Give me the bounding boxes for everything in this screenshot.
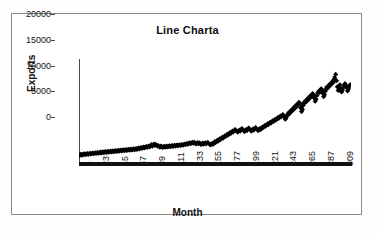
y-axis-tick-labels: 20000150001000050000 — [5, 14, 51, 117]
plot-area — [79, 59, 351, 162]
y-axis-tick — [51, 14, 55, 15]
x-axis-title: Month — [12, 207, 363, 218]
y-axis-tick-label: 20000 — [26, 9, 51, 19]
y-axis-tick — [51, 66, 55, 67]
x-axis-tick-label: 89 — [157, 156, 167, 166]
x-axis-tick-label: 111 — [176, 152, 186, 166]
x-axis-tick-label: 199 — [251, 151, 261, 166]
y-axis-tick — [51, 40, 55, 41]
x-axis-tick-label: 67 — [138, 156, 148, 166]
x-axis-tick-label: 1 — [82, 161, 92, 166]
data-series-markers — [79, 59, 351, 162]
y-axis-tick-label: 5000 — [31, 86, 51, 96]
y-axis-tick — [51, 91, 55, 92]
x-axis-tick-label: 243 — [288, 151, 298, 166]
chart-screenshot: Line Charta Exports 20000150001000050000… — [0, 0, 377, 234]
scatter-marker-path — [79, 72, 351, 158]
x-axis-tick-label: 23 — [101, 156, 111, 166]
x-axis-tick-label: 287 — [326, 151, 336, 166]
y-axis-tick-label: 15000 — [26, 35, 51, 45]
x-axis-tick-label: 177 — [232, 151, 242, 166]
x-axis-tick-label: 265 — [307, 151, 317, 166]
y-axis-tick-label: 10000 — [26, 61, 51, 71]
y-axis-tick — [51, 117, 55, 118]
x-axis-tick-labels: 123456789111133155177199221243265287309 — [79, 166, 352, 206]
chart-title: Line Charta — [12, 24, 363, 36]
x-axis-tick-label: 309 — [345, 151, 355, 166]
x-axis-tick-label: 45 — [120, 156, 130, 166]
x-axis-tick-label: 221 — [270, 151, 280, 166]
x-axis-tick-label: 155 — [213, 151, 223, 166]
x-axis-tick-label: 133 — [195, 151, 205, 166]
chart-frame: Line Charta Exports 20000150001000050000… — [11, 13, 362, 215]
